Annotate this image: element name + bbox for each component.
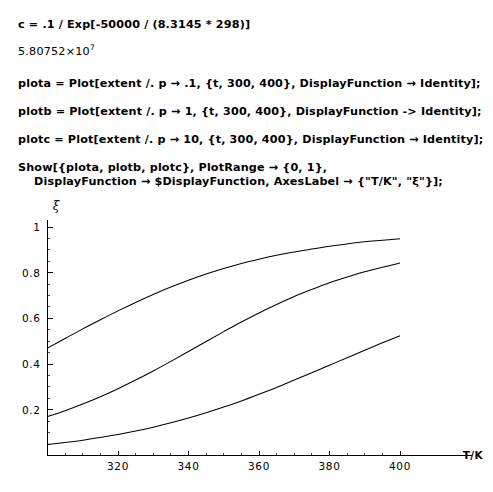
y-tick-label: 0.6 (22, 312, 41, 324)
y-tick-label: 0.2 (22, 404, 41, 416)
input-cell-c[interactable]: c = .1 / Exp[-50000 / (8.3145 * 298)] (18, 18, 250, 32)
plot-output-cell[interactable]: 320340360380400 0.20.40.60.81 T/K ξ (0, 192, 493, 492)
plot-curves (48, 239, 401, 445)
y-tick-label: 0.8 (22, 267, 41, 279)
input-cell-plotc-line: plotc = Plot[extent /. p → 10, {t, 300, … (18, 133, 483, 146)
input-cell-show-line-1: Show[{plota, plotb, plotc}, PlotRange → … (18, 161, 443, 175)
y-tick-label: 1 (33, 221, 40, 233)
input-cell-plotb-line: plotb = Plot[extent /. p → 1, {t, 300, 4… (18, 105, 482, 118)
curve-plotc (48, 336, 401, 445)
y-axis-ticks (48, 227, 53, 444)
output-exponent: 7 (90, 43, 95, 52)
mathematica-notebook: c = .1 / Exp[-50000 / (8.3145 * 298)] 5.… (0, 0, 493, 492)
input-cell-plotb[interactable]: plotb = Plot[extent /. p → 1, {t, 300, 4… (18, 105, 482, 119)
input-cell-show[interactable]: Show[{plota, plotb, plotc}, PlotRange → … (18, 161, 443, 189)
input-cell-c-line: c = .1 / Exp[-50000 / (8.3145 * 298)] (18, 18, 250, 31)
y-axis-label: ξ (53, 199, 61, 213)
output-mantissa: 5.80752 (18, 45, 66, 58)
x-tick-label: 380 (319, 460, 341, 472)
y-tick-label: 0.4 (22, 358, 41, 370)
y-axis-tick-labels: 0.20.40.60.81 (22, 221, 41, 416)
input-cell-plota-line: plota = Plot[extent /. p → .1, {t, 300, … (18, 77, 481, 90)
output-base: 10 (75, 45, 90, 58)
x-axis-ticks (65, 451, 400, 456)
x-axis-label: T/K (463, 449, 484, 461)
input-cell-plotc[interactable]: plotc = Plot[extent /. p → 10, {t, 300, … (18, 133, 483, 147)
input-cell-plota[interactable]: plota = Plot[extent /. p → .1, {t, 300, … (18, 77, 481, 91)
input-cell-show-line-2: DisplayFunction → $DisplayFunction, Axes… (18, 175, 443, 189)
x-tick-label: 320 (107, 460, 129, 472)
extent-vs-temperature-plot: 320340360380400 0.20.40.60.81 T/K ξ (0, 192, 493, 492)
x-tick-label: 340 (178, 460, 200, 472)
x-tick-label: 400 (389, 460, 411, 472)
multiplication-sign: × (66, 45, 76, 58)
x-tick-label: 360 (248, 460, 270, 472)
curve-plotb (48, 263, 401, 417)
output-cell-c: 5.80752×107 (18, 45, 95, 59)
x-axis-tick-labels: 320340360380400 (107, 460, 411, 472)
